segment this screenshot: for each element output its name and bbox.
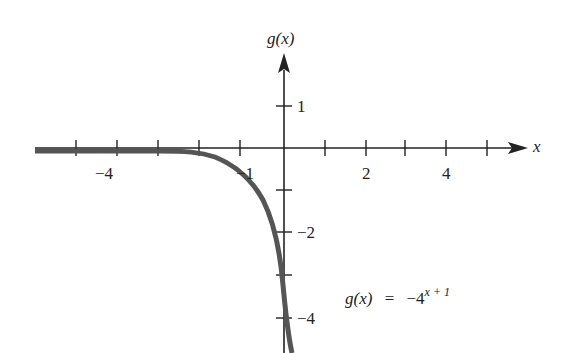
y-tick-label: −4	[297, 310, 315, 327]
function-graph: g(x) x −4 −1 2 4 1 −2 −4 g(x) = −4x + 1	[0, 0, 573, 353]
x-tick-label: 2	[362, 165, 371, 182]
function-exponent: x + 1	[425, 285, 450, 299]
x-tick-label: −1	[236, 165, 254, 182]
y-tick-label: −2	[297, 224, 315, 241]
function-lhs: g(x)	[345, 289, 372, 308]
y-axis-label: g(x)	[267, 30, 294, 47]
graph-canvas	[0, 0, 573, 353]
x-tick-label: 4	[442, 165, 451, 182]
x-tick-label: −4	[95, 165, 113, 182]
function-base: −4	[406, 289, 424, 308]
function-equals: =	[385, 289, 395, 308]
x-axis-label: x	[533, 138, 541, 155]
y-tick-label: 1	[297, 98, 306, 115]
function-label: g(x) = −4x + 1	[345, 290, 450, 307]
